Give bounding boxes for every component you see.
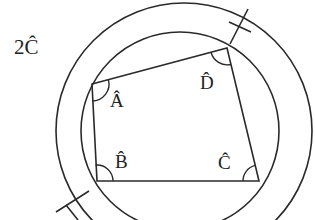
angle-label-b: B̂: [115, 152, 128, 171]
angle-arc-b: [96, 165, 113, 181]
angle-label-a: Â: [110, 91, 124, 110]
outer-circle: [56, 3, 312, 220]
angle-label-d: D̂: [200, 73, 214, 92]
geometry-diagram: [0, 0, 315, 220]
angle-arc-c: [243, 165, 255, 181]
tick-bottom-left-radial: [66, 205, 78, 220]
annulus-label: 2Ĉ: [14, 37, 39, 58]
angle-label-c: Ĉ: [218, 153, 231, 172]
